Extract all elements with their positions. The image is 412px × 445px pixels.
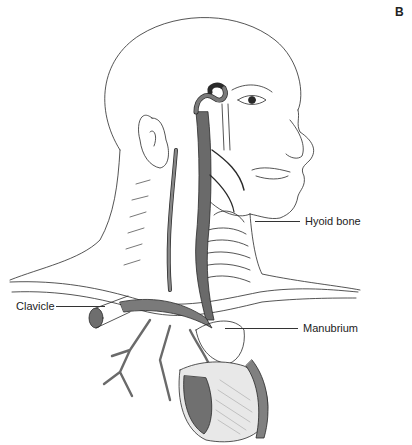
neck-back [10, 150, 120, 280]
label-hyoid-bone: Hyoid bone [305, 216, 361, 227]
leader-line-manubrium [225, 328, 298, 329]
nose [286, 120, 303, 158]
leader-line-hyoid [255, 221, 300, 222]
subclavian-vein [120, 299, 212, 328]
mouth [252, 168, 290, 179]
anatomy-figure: B Hyoid bone Clavicle Manubrium [0, 0, 412, 445]
face-profile [250, 110, 314, 219]
clavicle-cut-end [89, 308, 103, 328]
right-atrium [184, 376, 212, 434]
angular-vein [222, 104, 230, 150]
label-clavicle: Clavicle [16, 301, 55, 312]
cervical-spine [124, 180, 150, 265]
eyebrow [232, 85, 272, 92]
internal-jugular-vein [196, 112, 214, 320]
leader-line-clavicle [56, 306, 105, 307]
label-manubrium: Manubrium [303, 323, 358, 334]
facial-vein [212, 150, 244, 190]
hyoid-arc [214, 211, 244, 222]
pupil [249, 97, 256, 104]
ear [139, 115, 169, 168]
panel-letter: B [395, 5, 404, 19]
trachea [204, 211, 250, 282]
